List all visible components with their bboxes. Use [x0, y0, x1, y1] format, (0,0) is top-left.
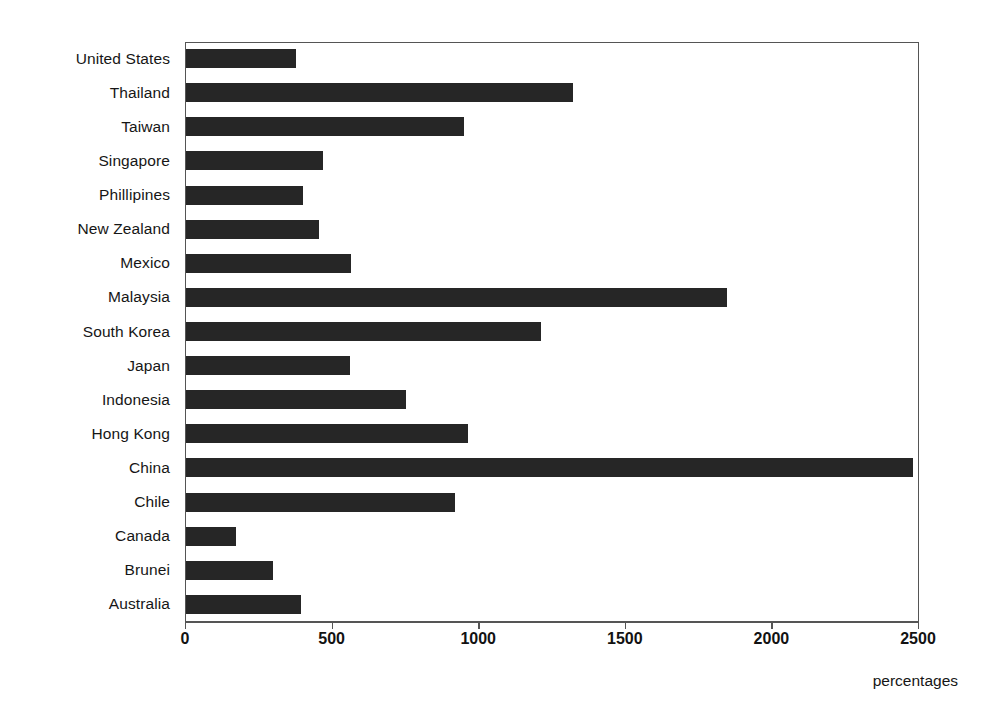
y-axis-category-labels: United StatesThailandTaiwanSingaporePhil…: [0, 42, 178, 622]
bar: [186, 356, 350, 375]
bar: [186, 322, 541, 341]
x-axis-tick-label: 1500: [607, 630, 643, 648]
category-label: Japan: [127, 358, 170, 374]
x-axis-title: percentages: [0, 672, 958, 690]
x-axis-tick-label: 500: [318, 630, 345, 648]
x-axis-tick: [332, 622, 333, 629]
bar: [186, 458, 913, 477]
category-label: Thailand: [110, 85, 170, 101]
category-label: Taiwan: [121, 119, 170, 135]
bar: [186, 151, 323, 170]
x-axis-tick-label: 1000: [460, 630, 496, 648]
x-axis-tick: [771, 622, 772, 629]
category-label: United States: [76, 51, 170, 67]
bar: [186, 493, 455, 512]
category-label: Mexico: [120, 255, 170, 271]
bar: [186, 117, 464, 136]
category-label: China: [129, 460, 170, 476]
bar: [186, 254, 351, 273]
category-label: Indonesia: [102, 392, 170, 408]
bars-layer: [186, 42, 919, 622]
x-axis-tick-label: 2000: [754, 630, 790, 648]
category-label: Phillipines: [99, 187, 170, 203]
bar: [186, 49, 296, 68]
bar: [186, 83, 573, 102]
category-label: Australia: [109, 596, 170, 612]
category-label: Malaysia: [108, 289, 170, 305]
bar-chart: United StatesThailandTaiwanSingaporePhil…: [0, 0, 981, 710]
x-axis-tick: [625, 622, 626, 629]
category-label: Canada: [115, 528, 170, 544]
category-label: Hong Kong: [92, 426, 170, 442]
category-label: Chile: [134, 494, 170, 510]
bar: [186, 390, 406, 409]
x-axis-tick: [185, 622, 186, 629]
bar: [186, 220, 319, 239]
category-label: South Korea: [83, 324, 170, 340]
bar: [186, 424, 468, 443]
category-label: Singapore: [98, 153, 170, 169]
category-label: Brunei: [125, 562, 170, 578]
category-label: New Zealand: [78, 221, 170, 237]
x-axis-tick: [478, 622, 479, 629]
x-axis-tick: [918, 622, 919, 629]
bar: [186, 527, 236, 546]
x-axis-tick-label: 0: [181, 630, 190, 648]
x-axis-line: [185, 621, 919, 623]
bar: [186, 288, 727, 307]
x-axis-tick-label: 2500: [900, 630, 936, 648]
bar: [186, 561, 273, 580]
bar: [186, 186, 303, 205]
bar: [186, 595, 301, 614]
